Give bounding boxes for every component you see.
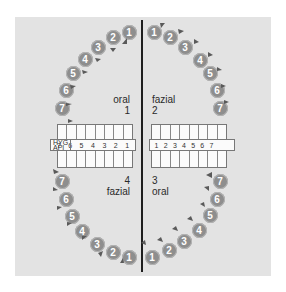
index-right-5: 5	[191, 142, 195, 149]
index-left-1: 1	[125, 142, 129, 149]
index-right-2: 2	[164, 142, 168, 149]
index-right-4: 4	[182, 142, 186, 149]
api-label: API	[53, 145, 68, 151]
index-left-4: 4	[91, 142, 95, 149]
index-row-label: HYG API	[51, 140, 71, 150]
index-right-3: 3	[173, 142, 177, 149]
label-upper-right-quadrant: 2	[152, 105, 158, 116]
index-left-3: 3	[102, 142, 106, 149]
label-upper-left-side: oral	[100, 94, 130, 105]
index-row-left: HYG API 7 6 5 4 3 2 1	[50, 139, 136, 151]
index-left-5: 5	[80, 142, 84, 149]
label-lower-right-quadrant: 3	[152, 175, 158, 186]
index-right-7: 7	[209, 142, 213, 149]
index-left-2: 2	[114, 142, 118, 149]
index-right-1: 1	[155, 142, 159, 149]
label-lower-left-quadrant: 4	[90, 175, 130, 186]
index-row-right: 1 2 3 4 5 6 7	[149, 139, 235, 151]
index-right-6: 6	[200, 142, 204, 149]
measurement-markers	[0, 0, 286, 292]
label-lower-right-side: oral	[152, 186, 169, 197]
label-upper-right-side: fazial	[152, 94, 175, 105]
label-lower-left-side: fazial	[90, 186, 130, 197]
label-upper-left-quadrant: 1	[100, 105, 130, 116]
